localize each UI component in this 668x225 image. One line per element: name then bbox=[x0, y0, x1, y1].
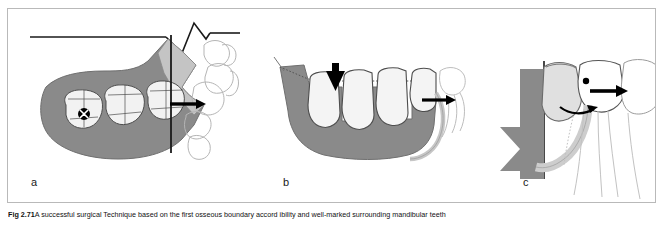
figure-illustration bbox=[8, 9, 656, 203]
tooth-first-molar bbox=[342, 70, 374, 130]
panel-label-a: a bbox=[31, 177, 37, 188]
tooth-second-molar bbox=[376, 68, 408, 126]
third-molar bbox=[147, 81, 185, 119]
extraction-site-x-marker bbox=[78, 108, 90, 120]
contact-point-dot bbox=[583, 78, 589, 84]
panel-a-illustration bbox=[30, 23, 240, 159]
figure-frame: a b c bbox=[7, 8, 656, 203]
wedge-notch bbox=[500, 127, 520, 171]
tooth-third-molar bbox=[410, 68, 436, 111]
panel-b-illustration bbox=[274, 57, 465, 160]
panel-label-c: c bbox=[523, 177, 529, 188]
figure-caption: Fig 2.71A successful surgical Technique … bbox=[8, 210, 664, 225]
figure-caption-text: A successful surgical Technique based on… bbox=[35, 210, 446, 219]
far-tooth-outline bbox=[621, 60, 656, 115]
anterior-ramus-outline bbox=[274, 57, 284, 71]
panel-label-b: b bbox=[283, 177, 289, 188]
dark-gray-wedge-shape bbox=[520, 69, 544, 127]
figure-page: a b c Fig 2.71A successful surgical Tech… bbox=[0, 0, 668, 225]
opposing-teeth-outlines bbox=[184, 41, 238, 160]
figure-caption-number: Fig 2.71 bbox=[8, 210, 35, 219]
